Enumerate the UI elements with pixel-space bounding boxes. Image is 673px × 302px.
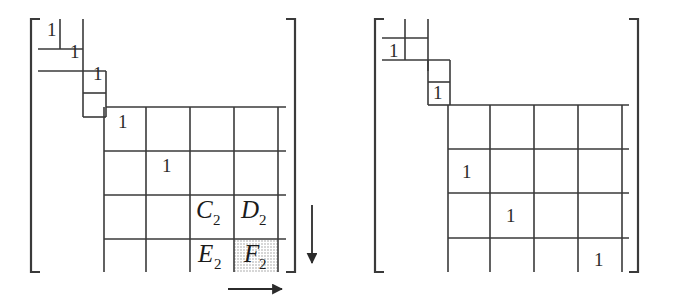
matrix-figure: 1 1 1 1 1 C 2 D 2 E 2 F 2 [0, 0, 673, 302]
left-entry-2: 1 [70, 41, 80, 62]
left-entry-4: 1 [118, 111, 128, 132]
left-entry-1: 1 [47, 19, 57, 40]
block-label-D2-base: D [240, 196, 259, 223]
block-label-F2-sub: 2 [259, 256, 267, 272]
block-label-F2-base: F [243, 240, 260, 267]
right-entry-4: 1 [506, 205, 516, 226]
block-label-C2-sub: 2 [213, 212, 221, 228]
block-label-C2-base: C [196, 196, 213, 223]
left-entry-3: 1 [93, 63, 103, 84]
block-label-D2-sub: 2 [259, 212, 267, 228]
left-entry-5: 1 [162, 155, 172, 176]
block-label-E2-base: E [197, 240, 213, 267]
right-entry-1: 1 [389, 40, 399, 61]
right-entry-5: 1 [594, 249, 604, 270]
right-entry-2: 1 [433, 82, 443, 103]
right-entry-3: 1 [462, 161, 472, 182]
matrix-figure-canvas: 1 1 1 1 1 C 2 D 2 E 2 F 2 [0, 0, 673, 302]
block-label-E2-sub: 2 [214, 256, 222, 272]
figure-background [0, 0, 673, 302]
